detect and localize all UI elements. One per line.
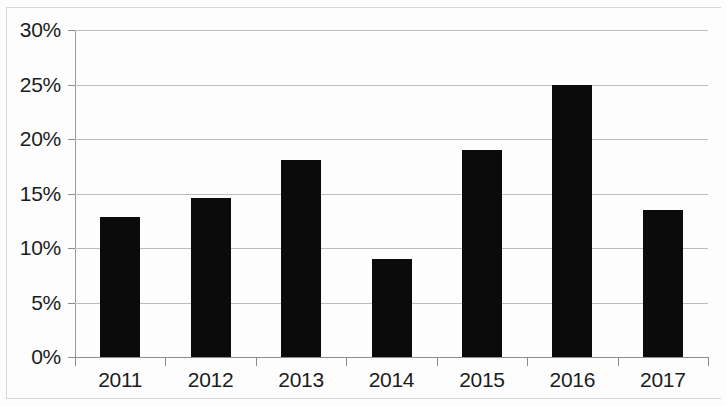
bar-2014 — [372, 259, 412, 357]
x-axis-end-tick — [708, 357, 709, 366]
bar-2011 — [100, 217, 140, 357]
x-tick-label-2014: 2014 — [346, 368, 436, 392]
x-tick-mark — [256, 357, 257, 366]
x-tick-mark — [527, 357, 528, 366]
x-tick-label-2017: 2017 — [618, 368, 708, 392]
x-tick-label-2016: 2016 — [527, 368, 617, 392]
x-tick-mark — [346, 357, 347, 366]
bar-2017 — [643, 210, 683, 357]
gridline-30pct — [75, 30, 708, 31]
y-tick-mark — [68, 30, 75, 31]
y-tick-label: 30% — [20, 18, 61, 42]
plot-area — [75, 30, 708, 357]
gridline-10pct — [75, 248, 708, 249]
y-tick-label: 5% — [31, 291, 61, 315]
y-tick-label: 10% — [20, 236, 61, 260]
y-tick-mark — [68, 139, 75, 140]
y-tick-label: 25% — [20, 73, 61, 97]
x-tick-label-2012: 2012 — [165, 368, 255, 392]
y-tick-label: 15% — [20, 182, 61, 206]
bar-2012 — [191, 198, 231, 357]
gridline-15pct — [75, 194, 708, 195]
y-tick-label: 20% — [20, 127, 61, 151]
x-axis-line — [75, 357, 708, 358]
y-tick-mark — [68, 85, 75, 86]
bar-chart-figure: 0%5%10%15%20%25%30% 20112012201320142015… — [0, 0, 727, 406]
y-tick-mark — [68, 357, 75, 358]
x-tick-label-2011: 2011 — [75, 368, 165, 392]
y-tick-label: 0% — [31, 345, 61, 369]
y-tick-mark — [68, 194, 75, 195]
x-tick-label-2015: 2015 — [437, 368, 527, 392]
x-tick-label-2013: 2013 — [256, 368, 346, 392]
y-tick-mark — [68, 248, 75, 249]
x-axis-start-tick — [75, 357, 76, 366]
bar-2016 — [552, 85, 592, 358]
x-tick-mark — [437, 357, 438, 366]
x-tick-mark — [165, 357, 166, 366]
gridline-25pct — [75, 85, 708, 86]
y-tick-mark — [68, 303, 75, 304]
bar-2015 — [462, 150, 502, 357]
x-tick-mark — [618, 357, 619, 366]
bar-2013 — [281, 160, 321, 357]
gridline-20pct — [75, 139, 708, 140]
